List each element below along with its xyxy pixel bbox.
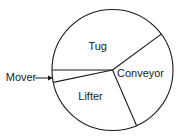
pie-chart: Tug Mover Lifter Conveyor bbox=[0, 0, 180, 140]
slice-label-conveyor: Conveyor bbox=[117, 67, 164, 79]
mover-arrow bbox=[35, 76, 53, 81]
slice-label-lifter: Lifter bbox=[78, 90, 103, 102]
slice-label-mover: Mover bbox=[6, 71, 37, 83]
slice-label-tug: Tug bbox=[88, 40, 107, 52]
